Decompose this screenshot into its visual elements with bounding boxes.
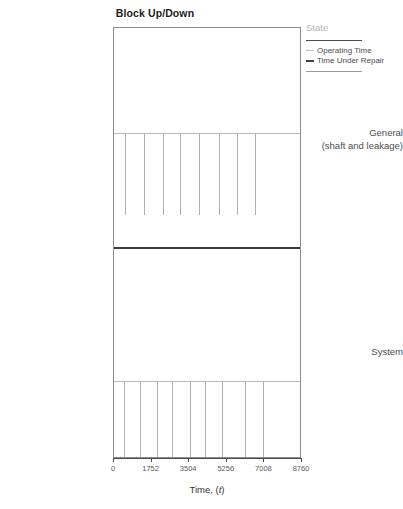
repair-event-line: [124, 381, 125, 457]
x-axis-tick-label: 7008: [255, 464, 272, 473]
repair-event-line: [205, 381, 206, 457]
x-axis-tick-label: 3504: [180, 464, 197, 473]
x-axis-tick-label: 5256: [217, 464, 234, 473]
legend-item-operating-time[interactable]: Operating Time: [306, 46, 401, 55]
panel-system: [114, 249, 300, 457]
panel-general: [114, 28, 300, 247]
y-axis-label-general-line2: (shaft and leakage): [295, 140, 403, 153]
repair-event-line: [263, 381, 264, 457]
x-axis-title-suffix: ): [221, 484, 224, 495]
legend-label-operating-time: Operating Time: [317, 46, 372, 55]
repair-event-line: [157, 381, 158, 457]
x-axis-tick-mark: [113, 458, 114, 462]
repair-event-line: [245, 381, 246, 457]
x-axis-title-prefix: Time, (: [189, 484, 218, 495]
x-axis-tick-mark: [188, 458, 189, 462]
legend-title: State: [306, 22, 401, 33]
legend-swatch-time-under-repair-icon: [306, 60, 314, 62]
x-axis-tick-label: 1752: [142, 464, 159, 473]
repair-event-line: [190, 381, 191, 457]
y-axis-label-system: System: [295, 346, 403, 359]
repair-event-line: [222, 381, 223, 457]
x-axis-tick-mark: [301, 458, 302, 462]
repair-event-line: [172, 381, 173, 457]
x-axis-line: [113, 458, 301, 459]
repair-event-line: [144, 133, 145, 215]
repair-event-line: [219, 133, 220, 215]
legend-item-time-under-repair[interactable]: Time Under Repair: [306, 56, 401, 65]
repair-event-line: [237, 133, 238, 215]
x-axis-tick-mark: [226, 458, 227, 462]
plot-area: [113, 27, 301, 458]
y-axis-label-general-line1: General: [295, 127, 403, 140]
repair-event-line: [255, 133, 256, 215]
repair-event-line: [140, 381, 141, 457]
repair-event-line: [125, 133, 126, 215]
page-title: Block Up/Down: [0, 7, 310, 19]
y-axis-label-general: General (shaft and leakage): [295, 127, 403, 152]
y-axis-label-system-line1: System: [295, 346, 403, 359]
repair-event-line: [199, 133, 200, 215]
x-axis-tick-mark: [263, 458, 264, 462]
x-axis-title: Time, (t): [113, 484, 301, 495]
x-axis-tick-label: 8760: [293, 464, 310, 473]
repair-event-line: [163, 133, 164, 215]
legend-label-time-under-repair: Time Under Repair: [317, 56, 384, 65]
x-axis-tick-label: 0: [111, 464, 115, 473]
legend: State Operating Time Time Under Repair: [306, 22, 401, 72]
repair-lines-system: [114, 381, 300, 457]
legend-divider-top: [306, 40, 362, 41]
x-axis-tick-mark: [151, 458, 152, 462]
legend-swatch-operating-time-icon: [306, 50, 314, 51]
repair-event-line: [180, 133, 181, 215]
repair-lines-general: [114, 133, 300, 215]
legend-divider-bottom: [306, 71, 362, 72]
